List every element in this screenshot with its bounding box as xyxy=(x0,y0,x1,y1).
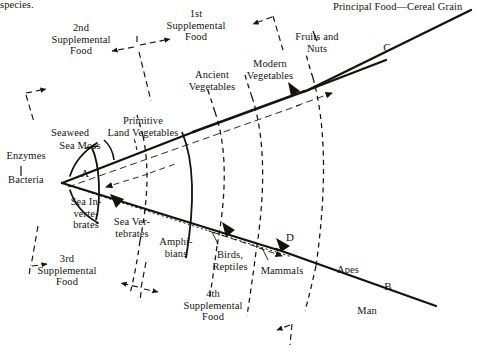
label-birds-reptiles: Birds, Reptiles xyxy=(204,249,256,272)
pointer-supplemental-1-stem xyxy=(139,52,151,101)
label-bacteria: Bacteria xyxy=(0,174,52,186)
key-a: A xyxy=(79,168,91,180)
label-apes: Apes xyxy=(330,264,366,276)
label-mammals: Mammals xyxy=(254,265,310,277)
label-man: Man xyxy=(350,305,384,317)
label-enzymes: Enzymes xyxy=(0,150,52,162)
primitive-land-hook xyxy=(134,138,137,150)
apex-inner-arrow-a xyxy=(106,163,178,187)
label-principal-food: Principal Food—Cereal Grain xyxy=(333,1,492,13)
key-b: B xyxy=(382,281,394,293)
key-d: D xyxy=(284,232,296,244)
pointer-modern-vegetables xyxy=(253,16,283,50)
stage-arc-birds-reptiles xyxy=(215,112,224,246)
label-modern-vegetables: Modern Vegetables xyxy=(236,58,304,81)
pointer-supplemental-2 xyxy=(26,89,46,122)
figure-canvas: species. 1st Supplemental Food 2nd Suppl… xyxy=(0,0,492,350)
label-amphibians: Amphi- bians xyxy=(152,236,200,259)
label-supplemental-2: 2nd Supplemental Food xyxy=(31,22,131,57)
label-primitive-land-vegetables: Primitive Land Vegetables xyxy=(91,115,195,138)
label-supplemental-3: 3rd Supplemental Food xyxy=(17,253,117,288)
page-text-fragment: species. xyxy=(0,0,34,11)
label-fruits-and-nuts: Fruits and Nuts xyxy=(285,31,349,54)
key-c: C xyxy=(381,42,393,54)
stage-arc-apes xyxy=(313,78,324,266)
pointer-supplemental-4 xyxy=(121,262,158,302)
label-supplemental-4: 4th Supplemental Food xyxy=(163,288,263,323)
label-sea-moss: Sea Moss xyxy=(51,140,109,152)
pointer-mammals-lower xyxy=(277,324,292,345)
label-supplemental-1: 1st Supplemental Food xyxy=(144,8,248,43)
